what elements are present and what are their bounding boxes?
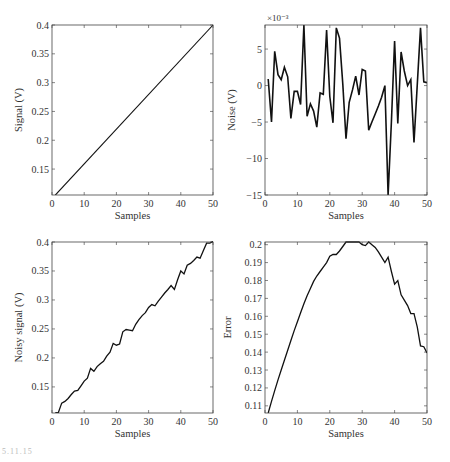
ytick-label: 0.17 xyxy=(245,293,263,304)
ytick-label: −10 xyxy=(246,153,262,164)
xtick-label: 50 xyxy=(422,416,432,427)
ytick-label: −5 xyxy=(251,117,262,128)
ytick-label: 0.11 xyxy=(245,400,262,411)
ylabel-noise: Noise (V) xyxy=(226,89,238,131)
signal-line xyxy=(55,25,213,195)
ytick-label: 0.15 xyxy=(32,164,50,175)
ytick-label: 0.35 xyxy=(32,265,50,276)
ytick-label: 0.15 xyxy=(32,381,50,392)
xtick-label: 40 xyxy=(390,416,400,427)
ytick-label: 0.2 xyxy=(37,352,50,363)
ticks-signal: 010203040500.150.20.250.30.350.4 xyxy=(32,20,219,210)
subplot-noisy-signal: 010203040500.150.20.250.30.350.4 Noisy s… xyxy=(13,237,218,440)
axes-frame-error xyxy=(265,242,427,413)
xtick-label: 30 xyxy=(357,416,367,427)
xtick-label: 30 xyxy=(144,198,154,209)
figure-canvas: 010203040500.150.20.250.30.350.4 Signal … xyxy=(0,0,450,462)
xtick-label: 10 xyxy=(292,198,302,209)
ylabel-error: Error xyxy=(222,316,233,339)
axes-frame-noisy-signal xyxy=(52,242,213,413)
xtick-label: 20 xyxy=(111,416,121,427)
ytick-label: −15 xyxy=(246,190,262,201)
subplot-noise: 01020304050−15−10−505 Noise (V) Samples … xyxy=(226,13,432,221)
ytick-label: 0.35 xyxy=(32,48,50,59)
xtick-label: 10 xyxy=(79,416,89,427)
xtick-label: 50 xyxy=(422,198,432,209)
ytick-label: 0 xyxy=(257,80,262,91)
xtick-label: 10 xyxy=(79,198,89,209)
ytick-label: 0.18 xyxy=(245,275,263,286)
ytick-label: 0.3 xyxy=(37,294,50,305)
ytick-label: 0.15 xyxy=(245,329,263,340)
ytick-label: 5 xyxy=(257,44,262,55)
ytick-label: 0.4 xyxy=(37,20,50,31)
y-multiplier-noise: ×10⁻³ xyxy=(267,13,289,23)
xtick-label: 0 xyxy=(50,416,55,427)
error-line xyxy=(268,242,427,413)
ytick-label: 0.14 xyxy=(245,347,263,358)
ytick-label: 0.13 xyxy=(245,365,263,376)
subplot-signal: 010203040500.150.20.250.30.350.4 Signal … xyxy=(13,20,218,222)
ytick-label: 0.12 xyxy=(245,382,263,393)
ylabel-noisy-signal: Noisy signal (V) xyxy=(13,292,25,362)
ytick-label: 0.19 xyxy=(245,257,263,268)
ytick-label: 0.4 xyxy=(37,237,50,248)
xlabel-noisy-signal: Samples xyxy=(115,428,151,439)
xlabel-error: Samples xyxy=(328,428,364,439)
xtick-label: 10 xyxy=(292,416,302,427)
ytick-label: 0.25 xyxy=(32,323,50,334)
ytick-label: 0.25 xyxy=(32,106,50,117)
ytick-label: 0.2 xyxy=(37,135,50,146)
xtick-label: 40 xyxy=(176,416,186,427)
xtick-label: 20 xyxy=(325,198,335,209)
ytick-label: 0.3 xyxy=(37,77,50,88)
xtick-label: 30 xyxy=(357,198,367,209)
xtick-label: 0 xyxy=(263,198,268,209)
noise-line xyxy=(268,25,427,195)
ytick-label: 0.2 xyxy=(250,239,263,250)
xtick-label: 30 xyxy=(144,416,154,427)
ticks-noisy-signal: 010203040500.150.20.250.30.350.4 xyxy=(32,237,219,428)
xlabel-signal: Samples xyxy=(115,210,151,221)
axes-frame-noise xyxy=(265,25,427,195)
xtick-label: 0 xyxy=(50,198,55,209)
ylabel-signal: Signal (V) xyxy=(13,87,25,132)
xtick-label: 0 xyxy=(263,416,268,427)
xtick-label: 20 xyxy=(325,416,335,427)
xtick-label: 50 xyxy=(208,198,218,209)
ytick-label: 0.16 xyxy=(245,311,263,322)
xtick-label: 40 xyxy=(176,198,186,209)
xtick-label: 50 xyxy=(208,416,218,427)
subplot-error: 010203040500.110.120.130.140.150.160.170… xyxy=(222,239,432,439)
figure-number-label: 5.11.15 xyxy=(2,447,33,456)
xtick-label: 20 xyxy=(111,198,121,209)
xlabel-noise: Samples xyxy=(328,210,364,221)
xtick-label: 40 xyxy=(390,198,400,209)
noisy-signal-line xyxy=(55,241,213,413)
